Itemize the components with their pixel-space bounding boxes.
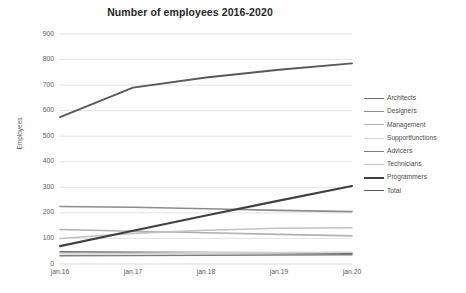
legend-label: Supportfunctions bbox=[387, 135, 437, 142]
series-line-designers bbox=[60, 207, 352, 212]
legend-swatch-icon bbox=[364, 111, 384, 112]
series-line-programmers bbox=[60, 186, 352, 246]
legend: ArchitectsDesignersManagementSupportfunc… bbox=[364, 92, 466, 198]
legend-label: Management bbox=[387, 122, 426, 129]
legend-label: Total bbox=[387, 188, 401, 195]
series-lines bbox=[60, 63, 352, 255]
legend-item-total[interactable]: Total bbox=[364, 184, 466, 197]
legend-swatch-icon bbox=[364, 177, 384, 179]
legend-label: Architects bbox=[387, 95, 416, 102]
legend-item-architects[interactable]: Architects bbox=[364, 92, 466, 105]
legend-swatch-icon bbox=[364, 138, 384, 139]
series-line-advicers bbox=[60, 255, 352, 256]
legend-item-programmers[interactable]: Programmers bbox=[364, 171, 466, 184]
legend-swatch-icon bbox=[364, 164, 384, 165]
series-line-total bbox=[60, 63, 352, 117]
legend-item-designers[interactable]: Designers bbox=[364, 105, 466, 118]
legend-swatch-icon bbox=[364, 124, 384, 125]
legend-item-advicers[interactable]: Advicers bbox=[364, 145, 466, 158]
legend-item-technicians[interactable]: Technicians bbox=[364, 158, 466, 171]
legend-label: Programmers bbox=[387, 174, 427, 181]
chart-container: Number of employees 2016-2020 Employees … bbox=[0, 0, 466, 293]
legend-item-management[interactable]: Management bbox=[364, 118, 466, 131]
legend-swatch-icon bbox=[364, 151, 384, 152]
legend-swatch-icon bbox=[364, 190, 384, 191]
legend-label: Designers bbox=[387, 108, 417, 115]
legend-label: Advicers bbox=[387, 148, 412, 155]
legend-swatch-icon bbox=[364, 98, 384, 99]
legend-item-supportfunctions[interactable]: Supportfunctions bbox=[364, 132, 466, 145]
legend-label: Technicians bbox=[387, 161, 421, 168]
